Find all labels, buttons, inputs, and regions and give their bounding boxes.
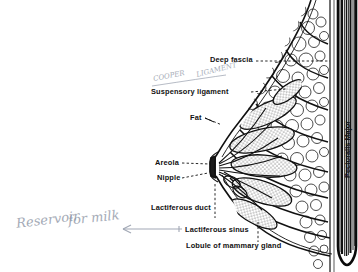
label-lactiferous-duct: Lactiferous duct	[151, 204, 211, 211]
label-pectoralis-major: Pectoralis Major	[343, 121, 352, 178]
leader-areola	[182, 163, 210, 164]
label-lactiferous-sinus: Lactiferous sinus	[185, 226, 249, 233]
leader-nipple	[182, 173, 208, 178]
breast-anatomy-diagram: Deep fascia Suspensory ligament Fat Areo…	[0, 0, 358, 272]
deep-fascia-layer	[330, 0, 334, 272]
mammary-lobules	[227, 75, 307, 234]
label-suspensory-ligament: Suspensory ligament	[151, 88, 229, 95]
diagram-artwork	[0, 0, 358, 272]
label-areola: Areola	[155, 159, 179, 166]
label-fat: Fat	[190, 114, 202, 121]
label-nipple: Nipple	[157, 174, 180, 181]
handwritten-arrow	[123, 225, 182, 233]
label-lobule-of-mammary-gland: Lobule of mammary gland	[186, 242, 281, 249]
